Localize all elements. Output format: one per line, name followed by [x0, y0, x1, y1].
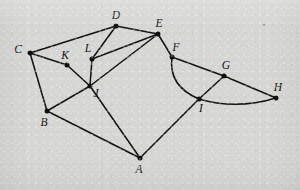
graph-edge-GI — [199, 76, 224, 99]
graph-vertex-label-E: E — [154, 17, 162, 29]
graph-vertex-label-D: D — [111, 9, 121, 21]
graph-vertex-F — [170, 55, 175, 60]
graph-edge-AI — [140, 99, 199, 158]
graph-edge-BA — [47, 111, 140, 158]
graph-vertex-D — [114, 24, 119, 29]
edges-layer — [30, 26, 276, 158]
graph-edge-EF — [158, 34, 172, 57]
graph-diagram: ABCDEFGHIJKL — [0, 0, 300, 190]
graph-vertex-label-A: A — [134, 163, 143, 175]
graph-edge-LJ — [90, 59, 92, 86]
graph-vertex-label-C: C — [14, 43, 22, 55]
graph-vertex-K — [65, 63, 70, 68]
graph-vertex-label-I: I — [198, 102, 204, 114]
graph-vertex-label-F: F — [171, 41, 180, 53]
graph-vertex-label-B: B — [40, 116, 47, 128]
graph-vertex-label-K: K — [60, 49, 70, 61]
graph-vertex-G — [222, 74, 227, 79]
graph-edge-FG — [172, 57, 224, 76]
graph-vertex-label-G: G — [222, 59, 231, 71]
graph-edge-CD — [30, 26, 116, 53]
graph-vertex-C — [28, 51, 33, 56]
graph-edge-DE — [116, 26, 158, 34]
graph-edge-CB — [30, 53, 47, 111]
graph-vertex-B — [45, 109, 50, 114]
graph-vertex-A — [138, 156, 143, 161]
graph-vertex-E — [156, 32, 161, 37]
graph-vertex-L — [90, 57, 95, 62]
graph-vertex-label-L: L — [84, 42, 91, 54]
graph-edge-KJ — [67, 65, 90, 86]
graph-edge-IH — [199, 98, 276, 104]
graph-edge-BJ — [47, 86, 90, 111]
graph-vertex-J — [88, 84, 93, 89]
figure-root: ABCDEFGHIJKL — [0, 0, 300, 190]
graph-edge-EJ — [90, 34, 158, 86]
graph-vertex-label-H: H — [273, 81, 283, 93]
nodes-layer — [28, 24, 279, 161]
graph-vertex-I — [197, 97, 202, 102]
graph-vertex-label-J: J — [93, 87, 99, 99]
graph-vertex-H — [274, 96, 279, 101]
graph-edge-GH — [224, 76, 276, 98]
graph-edge-FI — [172, 57, 199, 99]
